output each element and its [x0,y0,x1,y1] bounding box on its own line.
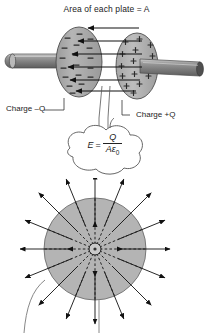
equation-fraction: Q Aε0 [103,133,123,156]
terminal-rod-right [140,59,203,76]
leader-line-positive [122,100,130,115]
radial-field-sphere-diagram [0,178,213,333]
equation-equals: = [96,140,101,150]
equation-lhs: E [88,140,94,150]
field-equation: E = Q Aε0 [72,130,138,160]
figure-title: Area of each plate = A [0,4,213,14]
negative-plate [56,27,102,97]
leader-line-negative [44,98,64,110]
charge-negative-label: Charge –Q [6,104,45,113]
denominator-subscript: 0 [116,149,120,156]
equation-denominator: Aε0 [103,144,123,156]
central-point-charge [89,243,101,255]
equation-numerator: Q [106,133,119,143]
physics-figure: Area of each plate = A [0,0,213,333]
